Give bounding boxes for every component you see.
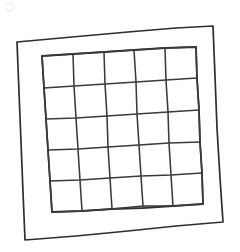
grid-cell[interactable] [171,173,203,206]
grid-cell[interactable] [136,80,168,113]
grid-cell[interactable] [168,110,200,143]
grid-cell[interactable] [138,112,170,145]
grid-cell[interactable] [109,145,141,178]
grid-cell[interactable] [73,52,106,85]
grid-cell[interactable] [139,143,171,176]
grid-cell[interactable] [46,117,78,150]
grid-cell[interactable] [107,113,139,146]
grid-cell[interactable] [75,84,107,117]
grid-cell[interactable] [78,146,110,179]
grid-cell[interactable] [165,47,197,80]
grid-cell[interactable] [50,179,82,212]
grid-cell[interactable] [105,82,137,115]
grid-cell[interactable] [170,141,202,174]
grid-cell[interactable] [42,54,75,87]
grid-cell[interactable] [111,176,143,209]
grid-cell[interactable] [134,49,166,82]
grid-cells[interactable] [42,47,203,212]
grid-cell[interactable] [48,148,80,181]
grid-cell[interactable] [80,178,112,211]
grid-sketch-drawing [0,0,240,252]
grid-cell[interactable] [77,115,109,148]
grid-cell[interactable] [44,85,77,118]
sketch-canvas [0,0,240,252]
grid-cell[interactable] [167,78,199,111]
grid-cell[interactable] [141,174,173,207]
grid-cell[interactable] [104,51,136,84]
